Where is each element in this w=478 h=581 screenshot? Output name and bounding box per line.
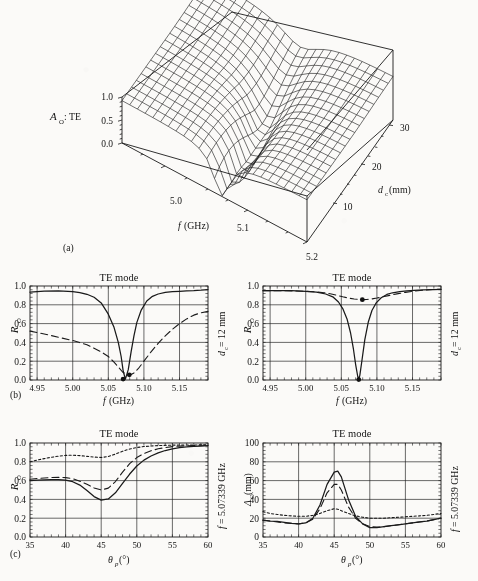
plot-c-left-xtick: 35: [26, 540, 35, 550]
panel-label-c: (c): [10, 549, 21, 560]
surface-gridline: [136, 80, 321, 179]
plot-c-left-ytick: 0.0: [14, 532, 26, 542]
plot-c-left-ytick: 0.8: [14, 457, 26, 467]
plot-c-left-series-dashed: [30, 445, 208, 490]
plot-c-right-xtick: 45: [330, 540, 339, 550]
panel-c-right-xlabel: θ: [341, 554, 346, 565]
surface-gridline: [191, 25, 277, 142]
panel-a-zlabel-tail: : TE: [64, 111, 81, 122]
plot-b-right-ytick: 0.4: [247, 338, 259, 348]
plot-b-left-marker-point: [121, 377, 126, 382]
surface-gridline: [276, 62, 362, 185]
plot-c-right-series-dashed: [263, 484, 441, 527]
surface-gridline: [222, 49, 308, 195]
panel-b-right-ylabel-sub: O: [248, 318, 255, 323]
panel-label-b: (b): [10, 390, 21, 401]
panel-b-left-right-label-group: d c = 12 mm: [216, 311, 229, 356]
surface-gridline: [168, 6, 254, 127]
plot-b-left-xtick: 5.10: [136, 383, 152, 393]
figure-svg: 1.0 0.5 0.0 A O : TE 5.0 5.1 5.2: [0, 0, 478, 581]
panel-a-xtick-0: 5.0: [170, 196, 182, 206]
surface-gridline: [145, 0, 231, 113]
plot-c-right-ytick: 100: [245, 438, 260, 448]
panel-b-right: TE mode 1.00.80.60.40.20.04.955.005.055.…: [241, 272, 462, 407]
panel-b-right-right-label-group: d c = 12 mm: [449, 311, 462, 356]
panel-c-right-xlabel-group: θ p (°): [341, 554, 362, 567]
panel-b-right-xlabel-unit: (GHz): [342, 395, 367, 407]
plot-b-left-xtick: 4.95: [29, 383, 45, 393]
plot-c-left-xtick: 45: [97, 540, 106, 550]
plot-c-right-ytick: 80: [250, 457, 260, 467]
plot-c-left-xtick: 55: [168, 540, 177, 550]
surface-gridline: [165, 40, 350, 139]
panel-c-left-plot: 1.00.80.60.40.20.0354045505560: [14, 438, 213, 550]
plot-b-right-ytick: 1.0: [247, 281, 259, 291]
plot-b-right-xtick: 4.95: [262, 383, 278, 393]
plot-b-left-xtick: 5.15: [172, 383, 188, 393]
surface-gridline: [137, 0, 223, 109]
panel-c-right-right-label: f: [449, 528, 460, 532]
panel-a: 1.0 0.5 0.0 A O : TE 5.0 5.1 5.2: [49, 0, 411, 262]
plot-b-left-ytick: 0.2: [14, 357, 26, 367]
surface-gridline: [292, 69, 378, 192]
panel-b-left-xlabel-group: f (GHz): [103, 395, 134, 407]
plot-b-left-xtick: 5.00: [65, 383, 81, 393]
plot-b-right-series-solid: [263, 289, 441, 379]
surface-gridline: [161, 0, 247, 121]
panel-a-zlabel: A: [49, 110, 57, 122]
panel-a-xaxis-label: f (GHz): [178, 220, 209, 232]
panel-a-ytick-1: 20: [372, 162, 382, 172]
surface-gridline: [175, 26, 360, 125]
panel-c-left-ylabel: R: [8, 483, 20, 491]
panel-b-left-right-label: d: [216, 351, 227, 356]
plot-b-right-marker-point: [356, 377, 361, 382]
surface-gridline: [151, 60, 336, 159]
plot-c-right-xtick: 50: [365, 540, 374, 550]
plot-c-left-ytick: 1.0: [14, 438, 26, 448]
panel-c-right-xlabel-unit: (°): [352, 554, 362, 566]
panel-a-xlabel: f: [178, 220, 182, 231]
panel-b-left: TE mode 1.00.80.60.40.20.04.955.005.055.…: [8, 272, 229, 407]
panel-c-left-xlabel: θ: [108, 554, 113, 565]
panel-c-right-ylabel-unit: (mm): [242, 473, 254, 495]
panel-b-right-plot: 1.00.80.60.40.20.04.955.005.055.105.15: [247, 281, 441, 393]
panel-c-left-title: TE mode: [100, 428, 139, 439]
surface-mesh: [122, 0, 393, 200]
plot-b-right-xtick: 5.00: [298, 383, 314, 393]
panel-c-left-right-label-tail: = 5.07339 GHz: [216, 463, 227, 524]
panel-a-ylabel-unit: (mm): [389, 184, 411, 196]
surface-gridline: [253, 52, 339, 174]
surface-gridline: [207, 41, 293, 159]
plot-c-left-xtick: 50: [132, 540, 141, 550]
plot-b-left-ytick: 0.4: [14, 338, 26, 348]
panel-b-left-ylabel: R: [8, 326, 20, 334]
xaxis3d-ticks: [141, 154, 307, 244]
panel-c-right-right-label-group: f = 5.07339 GHz: [449, 466, 460, 532]
plot-c-left-xtick: 60: [204, 540, 213, 550]
plot-c-right-xtick: 60: [437, 540, 446, 550]
figure-root: 1.0 0.5 0.0 A O : TE 5.0 5.1 5.2: [0, 0, 478, 581]
surface-gridline: [208, 0, 393, 76]
surface-gridline: [268, 58, 354, 180]
plot-c-left-xtick: 40: [61, 540, 70, 550]
panel-a-xtick-1: 5.1: [237, 223, 249, 233]
panel-a-yaxis-label: d c (mm): [378, 184, 411, 197]
panel-c-left: TE mode 1.00.80.60.40.20.0354045505560 R…: [8, 428, 227, 567]
panel-b-right-xlabel-group: f (GHz): [336, 395, 367, 407]
plot-b-right-ytick: 0.2: [247, 357, 259, 367]
panel-a-xtick-2: 5.2: [306, 252, 318, 262]
plot-b-left-series-solid: [30, 290, 208, 379]
plot-b-right-xtick: 5.15: [405, 383, 421, 393]
plot-b-left-ytick: 0.8: [14, 300, 26, 310]
plot-b-right-xtick: 5.05: [334, 383, 350, 393]
panel-b-left-xlabel-unit: (GHz): [109, 395, 134, 407]
panel-a-ztick-1: 0.5: [101, 116, 113, 126]
plot-b-right-xtick: 5.10: [369, 383, 385, 393]
surface-gridline: [160, 47, 345, 146]
panel-b-left-ylabel-sub: O: [15, 318, 22, 323]
panel-b-right-title: TE mode: [333, 272, 372, 283]
panel-b-right-right-label: d: [449, 351, 460, 356]
plot-c-left-ytick: 0.4: [14, 495, 26, 505]
panel-c-right-title: TE mode: [333, 428, 372, 439]
panel-b-right-ylabel: R: [241, 326, 253, 334]
